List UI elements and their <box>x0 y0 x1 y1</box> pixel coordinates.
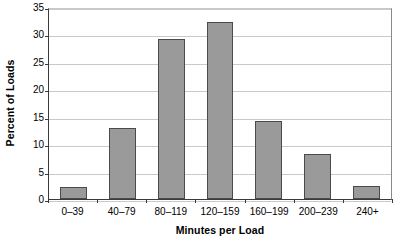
plot-area <box>48 8 392 200</box>
bar-chart: Percent of Loads 05101520253035 0–3940–7… <box>0 0 399 247</box>
x-axis-title: Minutes per Load <box>48 224 392 236</box>
x-axis-tick-mark <box>343 199 344 203</box>
y-axis-tick-label: 35 <box>18 3 44 13</box>
bar[interactable] <box>353 186 380 199</box>
x-axis-tick-labels: 0–3940–7980–119120–159160–199200–239240+ <box>48 205 392 221</box>
bar-slot <box>244 9 293 199</box>
x-axis-tick-label: 160–199 <box>245 205 294 221</box>
y-axis-tick-label: 10 <box>18 140 44 150</box>
y-axis-tick-label: 30 <box>18 30 44 40</box>
y-axis-tick-labels: 05101520253035 <box>18 0 44 210</box>
x-axis-tick-mark <box>146 199 147 203</box>
x-axis-tick-label: 200–239 <box>294 205 343 221</box>
bar-slot <box>49 9 98 199</box>
bar-slot <box>98 9 147 199</box>
x-axis-tick-mark <box>48 199 49 203</box>
x-axis-tick-mark <box>392 199 393 203</box>
bar-slot <box>196 9 245 199</box>
bar-slot <box>293 9 342 199</box>
x-axis-tick-label: 40–79 <box>97 205 146 221</box>
x-axis-tick-mark <box>294 199 295 203</box>
x-axis-tick-label: 240+ <box>343 205 392 221</box>
y-axis-tick-label: 20 <box>18 85 44 95</box>
bar[interactable] <box>158 39 185 199</box>
x-axis-tick-mark <box>97 199 98 203</box>
bar[interactable] <box>255 121 282 199</box>
bar[interactable] <box>207 22 234 199</box>
bars-container <box>49 9 391 199</box>
bar[interactable] <box>60 187 87 199</box>
x-axis-tick-mark <box>195 199 196 203</box>
x-axis-tick-label: 80–119 <box>146 205 195 221</box>
y-axis-tick-label: 25 <box>18 58 44 68</box>
bar-slot <box>147 9 196 199</box>
bar[interactable] <box>304 154 331 199</box>
x-axis-tick-mark <box>245 199 246 203</box>
x-axis-tick-label: 0–39 <box>48 205 97 221</box>
y-axis-tick-label: 0 <box>18 195 44 205</box>
x-axis-tick-label: 120–159 <box>195 205 244 221</box>
x-axis-tick-marks <box>48 199 392 204</box>
y-axis-title: Percent of Loads <box>0 0 20 205</box>
bar-slot <box>342 9 391 199</box>
y-axis-tick-label: 5 <box>18 168 44 178</box>
y-axis-tick-label: 15 <box>18 113 44 123</box>
y-axis-title-label: Percent of Loads <box>4 59 16 146</box>
bar[interactable] <box>109 128 136 199</box>
